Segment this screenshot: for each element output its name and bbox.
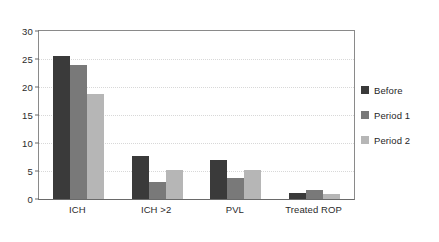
y-tick-label: 20	[22, 82, 33, 93]
y-tick-label: 30	[22, 26, 33, 37]
bar	[210, 160, 227, 199]
bar	[70, 65, 87, 199]
bar	[323, 194, 340, 199]
bar	[166, 170, 183, 199]
bar	[53, 56, 70, 199]
bar-group	[197, 31, 276, 199]
bar	[149, 182, 166, 199]
x-tick-label: ICH	[69, 204, 86, 215]
bars-layer	[39, 31, 354, 199]
legend-item-label: Before	[374, 85, 403, 96]
bar	[132, 156, 149, 199]
legend-item-label: Period 1	[374, 110, 410, 121]
bar	[87, 94, 104, 199]
legend-item-label: Period 2	[374, 135, 410, 146]
bar	[227, 178, 244, 199]
bar-chart: 051015202530 ICHICH >2PVLTreated ROP Bef…	[0, 0, 439, 242]
bar-group	[118, 31, 197, 199]
plot-area: 051015202530	[38, 30, 355, 200]
chart-legend: Before Period 1 Period 2	[361, 84, 437, 159]
legend-swatch-icon	[361, 86, 369, 94]
x-tick-label: Treated ROP	[285, 204, 342, 215]
y-tick-label: 5	[28, 166, 33, 177]
x-tick-label: ICH >2	[141, 204, 171, 215]
y-tick-label: 10	[22, 138, 33, 149]
legend-item: Period 1	[361, 109, 437, 121]
y-tick-label: 15	[22, 110, 33, 121]
y-tick-label: 0	[28, 194, 33, 205]
bar	[289, 193, 306, 199]
legend-swatch-icon	[361, 136, 369, 144]
bar	[244, 170, 261, 199]
legend-swatch-icon	[361, 111, 369, 119]
bar-group	[39, 31, 118, 199]
legend-item: Before	[361, 84, 437, 96]
bar	[306, 190, 323, 199]
bar-group	[275, 31, 354, 199]
y-tick-label: 25	[22, 54, 33, 65]
x-tick-label: PVL	[226, 204, 244, 215]
legend-item: Period 2	[361, 134, 437, 146]
